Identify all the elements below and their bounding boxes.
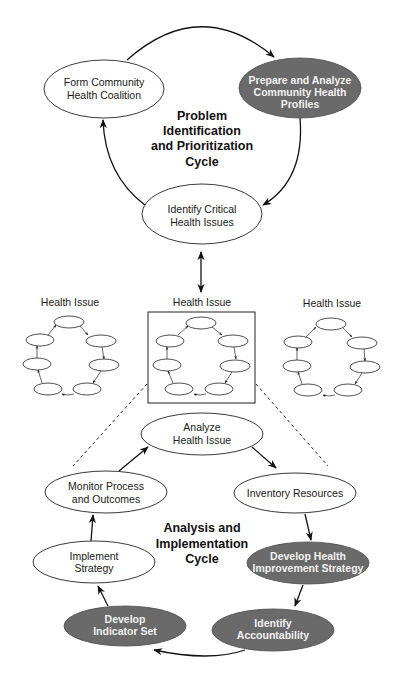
node-label: Implement [69,550,118,562]
arrow-accountability-to-indicators [154,650,245,656]
node-label: Indicator Set [93,625,157,637]
community-health-cycle-diagram: Form Community Health Coalition Prepare … [0,0,398,676]
node-label: Health Issues [170,216,234,228]
node-inventory-resources: Inventory Resources [234,473,356,513]
arrow-coalition-to-profiles [127,27,274,60]
node-develop-strategy: Develop Health Improvement Strategy [247,542,369,584]
arrow-profiles-to-issues [263,118,301,205]
node-label: Develop [105,613,146,625]
arrow-implement-to-monitor [91,515,93,541]
zoom-line-right [256,384,328,466]
arrow-monitor-to-analyze [119,447,148,471]
mini-cycle-right [283,318,380,396]
arrow-issues-to-coalition [103,120,145,205]
node-label: Analyze [183,421,221,433]
title-line: Cycle [185,155,218,169]
problem-cycle-title: Problem Identification and Prioritizatio… [151,109,253,169]
node-identify-accountability: Identify Accountability [212,609,334,651]
node-label: Profiles [281,98,320,110]
title-line: Cycle [185,552,218,566]
zoom-line-left [73,384,147,466]
node-implement-strategy: Implement Strategy [33,541,155,583]
title-line: Problem [177,109,227,123]
node-label: Monitor Process [68,480,144,492]
problem-identification-cycle: Form Community Health Coalition Prepare … [44,27,361,244]
arrow-inventory-to-strategy [305,514,311,540]
node-identify-issues: Identify Critical Health Issues [142,184,262,244]
arrow-analyze-to-inventory [252,447,276,468]
node-label: Identify [254,617,291,629]
node-label: Develop Health [270,550,346,562]
node-label: Inventory Resources [247,487,343,499]
node-label: Improvement Strategy [253,562,364,574]
node-label: Form Community [64,76,145,88]
title-line: Identification [163,124,241,138]
node-label: Health Coalition [67,89,141,101]
mini-cycle-left [23,316,119,395]
health-issue-label-right: Health Issue [303,297,362,309]
node-prepare-profiles: Prepare and Analyze Community Health Pro… [239,58,361,118]
health-issue-label-left: Health Issue [41,296,100,308]
node-label: Accountability [237,629,310,641]
node-analyze-issue: Analyze Health Issue [141,413,263,455]
analysis-cycle-title: Analysis and Implementation Cycle [156,521,248,566]
analysis-implementation-cycle: Analyze Health Issue Inventory Resources… [33,413,369,656]
health-issue-label-center: Health Issue [173,296,232,308]
node-form-coalition: Form Community Health Coalition [44,60,164,118]
node-label: Community Health [254,86,347,98]
node-develop-indicators: Develop Indicator Set [64,606,186,646]
arrow-indicators-to-implement [98,586,108,606]
mini-cycle-center [153,317,250,395]
title-line: Analysis and [163,521,240,535]
node-label: Health Issue [173,434,232,446]
node-label: and Outcomes [72,493,140,505]
title-line: Implementation [156,537,248,551]
node-label: Identify Critical [168,203,237,215]
arrow-strategy-to-accountability [295,585,303,606]
title-line: and Prioritization [151,139,253,153]
node-label: Strategy [74,562,114,574]
health-issue-cycles: Health Issue Health Issue Health Issue [23,296,380,403]
node-label: Prepare and Analyze [249,74,352,86]
node-monitor-process: Monitor Process and Outcomes [45,471,167,513]
